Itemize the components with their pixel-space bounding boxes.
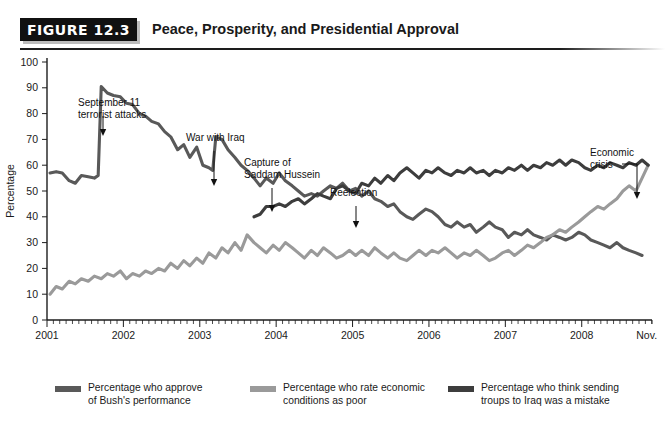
y-tick-label: 70 (26, 133, 38, 145)
y-axis-title: Percentage (4, 164, 16, 218)
y-tick-label: 80 (26, 107, 38, 119)
annotation-label: Capture of (244, 157, 291, 168)
legend-swatch-economy (250, 386, 276, 392)
figure-title: Peace, Prosperity, and Presidential Appr… (152, 21, 459, 37)
chart-canvas: 0102030405060708090100 20012002200320042… (0, 44, 665, 344)
y-tick-label: 20 (26, 262, 38, 274)
annotation-label: Economic (590, 147, 634, 158)
y-tick-label: 10 (26, 288, 38, 300)
legend-swatch-iraq (448, 386, 474, 392)
x-tick-label: 2007 (494, 329, 518, 341)
annotation-arrowhead (353, 221, 359, 228)
figure-header: FIGURE 12.3 Peace, Prosperity, and Presi… (0, 8, 665, 36)
legend-item-economy: Percentage who rate economic conditions … (250, 382, 425, 407)
legend-item-iraq: Percentage who think sending troups to I… (448, 382, 619, 407)
annotation-arrowhead (634, 192, 640, 199)
x-tick-label: 2001 (35, 329, 59, 341)
annotation-label: terrorist attacks (78, 109, 146, 120)
y-tick-label: 60 (26, 159, 38, 171)
y-tick-label: 90 (26, 81, 38, 93)
y-tick-label: 50 (26, 185, 38, 197)
x-axis-ticks (47, 320, 652, 327)
y-axis-labels: 0102030405060708090100 (20, 56, 38, 326)
annotation-arrowhead (211, 179, 217, 186)
y-tick-label: 0 (32, 314, 38, 326)
annotation-label: Saddam Hussein (244, 169, 320, 180)
y-tick-label: 40 (26, 210, 38, 222)
legend-label-approval: Percentage who approve of Bush's perform… (88, 382, 203, 407)
legend-item-approval: Percentage who approve of Bush's perform… (55, 382, 203, 407)
annotation-label: War with Iraq (186, 132, 245, 143)
x-tick-label-last: Nov. (636, 329, 657, 341)
legend-swatch-approval (55, 386, 81, 392)
x-tick-label: 2002 (112, 329, 136, 341)
y-tick-label: 30 (26, 236, 38, 248)
y-axis-ticks (42, 62, 47, 320)
series-line-2 (50, 165, 648, 294)
x-tick-label: 2005 (341, 329, 365, 341)
x-tick-label: 2003 (188, 329, 212, 341)
figure-number-tag: FIGURE 12.3 (20, 18, 137, 41)
annotation-label: Reelection (330, 187, 377, 198)
y-tick-label: 100 (20, 56, 38, 68)
annotation-label: September 11 (78, 97, 141, 108)
line-chart: 0102030405060708090100 20012002200320042… (0, 44, 665, 344)
annotation-label: crisis (590, 159, 613, 170)
chart-legend: Percentage who approve of Bush's perform… (0, 382, 665, 416)
page-bottom-fragment (20, 412, 420, 422)
legend-label-economy: Percentage who rate economic conditions … (283, 382, 425, 407)
x-tick-label-last: 2008 (635, 342, 659, 345)
x-tick-label: 2004 (264, 329, 288, 341)
annotation-arrowhead (269, 205, 275, 212)
legend-label-iraq: Percentage who think sending troups to I… (481, 382, 619, 407)
x-axis-labels: 20012002200320042005200620072008Nov.2008 (35, 329, 658, 344)
x-tick-label: 2008 (570, 329, 594, 341)
x-tick-label: 2006 (417, 329, 441, 341)
